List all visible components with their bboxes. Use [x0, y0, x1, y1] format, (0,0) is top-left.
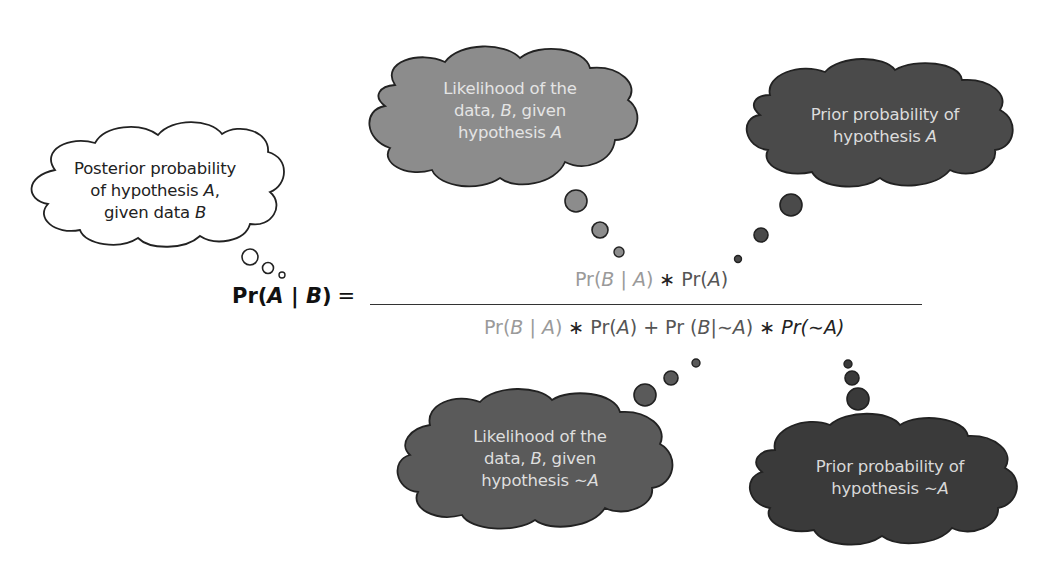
prior-not-term: Pr(∼A)	[781, 316, 844, 338]
text-line: hypothesis ∼A	[775, 478, 1005, 500]
equation-denominator: Pr(B | A) ∗ Pr(A) + Pr (B|∼A) ∗ Pr(∼A)	[484, 316, 844, 338]
text-line: Likelihood of the	[400, 78, 620, 100]
bayes-diagram: Posterior probability of hypothesis A, g…	[0, 0, 1047, 564]
prior-A-cloud-text: Prior probability of hypothesis A	[770, 104, 1000, 148]
likelihood-A-cloud-text: Likelihood of the data, B, given hypothe…	[400, 78, 620, 144]
thought-bubble-large	[634, 384, 656, 406]
likelihood-term: Pr(B | A)	[484, 316, 562, 338]
text-line: hypothesis ∼A	[430, 470, 650, 492]
thought-bubble-medium	[664, 371, 678, 385]
prior-term: Pr(A)	[590, 316, 637, 338]
text-line: of hypothesis A,	[40, 180, 270, 202]
likelihood-notA-cloud-text: Likelihood of the data, B, given hypothe…	[430, 426, 650, 492]
prior-notA-cloud	[750, 360, 1017, 545]
posterior-cloud-text: Posterior probability of hypothesis A, g…	[40, 158, 270, 224]
thought-bubble-small	[614, 247, 624, 257]
text-line: Likelihood of the	[430, 426, 650, 448]
thought-bubble-small	[844, 360, 852, 368]
thought-bubble-large	[242, 249, 258, 265]
text-line: Prior probability of	[775, 456, 1005, 478]
prior-A-cloud	[735, 59, 1013, 263]
thought-bubble-large	[780, 194, 802, 216]
thought-bubble-small	[692, 359, 700, 367]
text-line: Posterior probability	[40, 158, 270, 180]
thought-bubble-large	[565, 190, 587, 212]
text-line: Prior probability of	[770, 104, 1000, 126]
text-line: hypothesis A	[770, 126, 1000, 148]
text-line: data, B, given	[430, 448, 650, 470]
likelihood-not-term: Pr (B|∼A)	[665, 316, 753, 338]
text-line: data, B, given	[400, 100, 620, 122]
text-line: hypothesis A	[400, 122, 620, 144]
thought-bubble-medium	[592, 222, 608, 238]
thought-bubble-large	[847, 388, 869, 410]
equation-numerator: Pr(B | A) ∗ Pr(A)	[575, 268, 728, 290]
equals-sign: =	[338, 284, 356, 308]
likelihood-term: Pr(B | A)	[575, 268, 653, 290]
thought-bubble-small	[735, 256, 742, 263]
fraction-bar	[370, 304, 922, 305]
prior-notA-cloud-text: Prior probability of hypothesis ∼A	[775, 456, 1005, 500]
thought-bubble-small	[279, 272, 285, 278]
thought-bubble-medium	[263, 263, 274, 274]
thought-bubble-medium	[845, 371, 859, 385]
text-line: given data B	[40, 202, 270, 224]
prior-term: Pr(A)	[681, 268, 728, 290]
equation-lhs: Pr(A | B)=	[232, 284, 355, 308]
thought-bubble-medium	[754, 228, 768, 242]
